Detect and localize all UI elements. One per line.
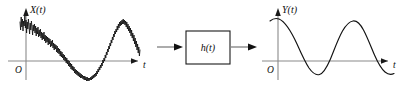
output-plot: Y(t) O t [262,4,396,80]
output-signal-label: Y(t) [282,4,298,16]
output-flow-arrow [231,44,257,51]
input-plot-axis-label: t [143,60,146,70]
input-plot: X(t) O t [8,4,146,81]
input-flow-arrowhead [174,44,183,51]
input-signal-curve [20,16,140,81]
output-signal-curve [270,19,394,75]
input-plot-y-axis-arrowhead [23,8,29,16]
output-plot-axis-label: t [393,60,396,70]
input-plot-x-axis-arrowhead [131,58,138,64]
figure-canvas: X(t) O t h(t) Y(t [0,0,402,94]
output-plot-origin-label: O [267,65,274,75]
system-block-label: h(t) [201,42,216,54]
output-plot-y-axis-arrowhead [275,8,281,16]
output-plot-x-axis-arrowhead [381,58,388,64]
system-block[interactable]: h(t) [186,31,230,64]
output-flow-arrowhead [248,44,257,51]
input-plot-origin-label: O [15,65,22,75]
signal-system-figure: X(t) O t h(t) Y(t [0,0,402,94]
input-flow-arrow [157,44,183,51]
input-signal-label: X(t) [29,4,46,16]
